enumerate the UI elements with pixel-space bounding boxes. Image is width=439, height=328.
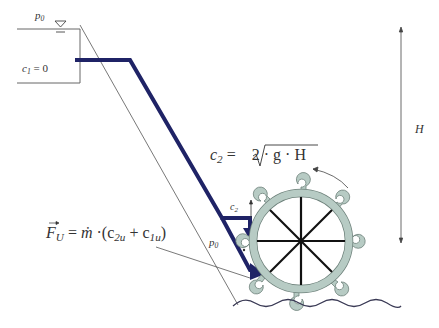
wheel-spokes [257,197,345,285]
force-leader-line [156,247,250,278]
c1-label: c1 = 0 [22,62,48,76]
water-level-icon [55,21,66,32]
height-label: H [415,122,424,137]
c2-formula: c2 = 2 · g · H [210,146,306,165]
p0-top-label: p0 [35,9,44,23]
tailwater-wave [233,300,401,308]
p0-bottom-label: p0 [209,236,218,250]
c2-small-label: c2 [230,201,238,214]
marker-dot [243,249,245,251]
water-wheel [236,173,365,311]
height-arrow [399,27,402,243]
c2-vector-arrow [250,200,253,218]
force-formula: FU = ṁ ·(c2u + c1u) [46,224,166,243]
rotation-arrow [313,167,348,188]
